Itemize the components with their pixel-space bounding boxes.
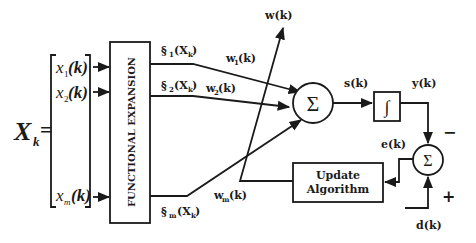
plus-sign: +	[442, 187, 455, 206]
svg-text:Update: Update	[316, 169, 360, 182]
svg-text:m: m	[64, 197, 71, 207]
svg-text:(k): (k)	[229, 189, 247, 202]
functional-expansion-block: FUNCTIONAL EXPANSION	[110, 42, 150, 223]
svg-text:x: x	[55, 58, 64, 77]
summer-output-label: s(k)	[344, 77, 368, 90]
svg-text:§: §	[161, 205, 167, 218]
minus-sign: −	[443, 123, 456, 142]
weight-label-m: w m (k)	[213, 189, 247, 204]
svg-text:(X: (X	[174, 79, 188, 92]
weight-label-2: w 2 (k)	[205, 82, 236, 97]
svg-text:(k): (k)	[238, 52, 256, 65]
expanded-line-m	[150, 120, 301, 196]
input-element-xm: x m (k)	[55, 186, 91, 207]
svg-text:x: x	[55, 186, 64, 205]
arrow-error-to-update	[385, 159, 413, 182]
expanded-label-m: § m (X k )	[161, 205, 200, 220]
input-element-x1: x 1 (k)	[55, 58, 88, 79]
svg-text:(k): (k)	[68, 58, 88, 77]
svg-text:Σ: Σ	[423, 152, 432, 169]
summer-node: Σ	[293, 83, 333, 123]
error-label: e(k)	[381, 138, 406, 151]
svg-text:Algorithm: Algorithm	[306, 183, 370, 196]
svg-text:§: §	[161, 44, 167, 57]
svg-text:x: x	[55, 83, 64, 102]
svg-text:): )	[192, 44, 197, 57]
activation-block: ∫	[374, 92, 400, 121]
desired-label: d(k)	[416, 219, 442, 232]
expanded-line-2	[150, 96, 289, 107]
svg-text:): )	[192, 79, 197, 92]
svg-text:FUNCTIONAL EXPANSION: FUNCTIONAL EXPANSION	[126, 57, 137, 207]
svg-text:(X: (X	[177, 205, 191, 218]
svg-text:§: §	[161, 79, 167, 92]
svg-text:X: X	[13, 117, 32, 146]
svg-text:k: k	[33, 134, 40, 149]
functional-link-diagram: X k = x 1 (k) x 2 (k) x m (k) FUNCTIONAL…	[0, 0, 476, 243]
weight-vector-label: w(k)	[264, 9, 293, 22]
error-summer-node: Σ	[413, 145, 443, 175]
input-vector-bracket	[51, 55, 90, 207]
svg-text:): )	[195, 205, 200, 218]
arrow-output-to-error-summer	[400, 103, 428, 143]
svg-text:m: m	[169, 211, 177, 220]
expanded-label-1: § 1 (X k )	[161, 44, 197, 59]
weight-label-1: w 1 (k)	[225, 52, 256, 67]
svg-text:(k): (k)	[218, 82, 236, 95]
svg-text:(k): (k)	[71, 186, 91, 205]
update-algorithm-block: Update Algorithm	[293, 163, 383, 202]
input-element-x2: x 2 (k)	[55, 83, 88, 104]
output-label: y(k)	[411, 77, 436, 90]
arrow-desired-to-error-summer	[405, 177, 428, 208]
svg-text:(k): (k)	[68, 83, 88, 102]
expanded-label-2: § 2 (X k )	[161, 79, 197, 94]
svg-text:(X: (X	[174, 44, 188, 57]
svg-text:Σ: Σ	[307, 91, 320, 116]
input-vector-label: X k =	[13, 117, 53, 149]
